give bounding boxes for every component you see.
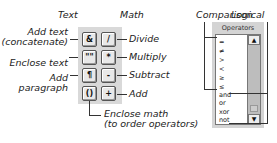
operators-panel: Operators = ≠ > < ≥ ≤ and or xor not ▲ ▼ <box>212 22 264 128</box>
connector-line <box>117 75 127 76</box>
label-add-paragraph: Add paragraph <box>19 73 68 93</box>
label-divide: Divide <box>129 34 159 44</box>
operator-less-equal[interactable]: ≤ <box>219 84 224 91</box>
logical-bracket <box>267 22 268 124</box>
operators-list[interactable]: = ≠ > < ≥ ≤ and or xor not ▲ ▼ <box>215 34 261 125</box>
label-enclose-math: Enclose math (to order operators) <box>104 109 198 129</box>
header-logical: Logical <box>231 10 264 20</box>
header-math: Math <box>120 10 144 20</box>
operator-xor[interactable]: xor <box>219 109 229 116</box>
parentheses-button[interactable]: () <box>82 86 97 101</box>
add-button[interactable]: + <box>101 86 116 101</box>
scroll-thumb[interactable] <box>250 105 258 112</box>
operator-greater[interactable]: > <box>219 57 224 64</box>
label-multiply: Multiply <box>129 52 167 62</box>
connector-line <box>117 39 127 40</box>
comparison-bracket <box>204 37 217 38</box>
enclose-text-button[interactable]: "" <box>82 50 97 65</box>
comparison-bracket <box>204 22 205 90</box>
concatenate-button[interactable]: & <box>82 32 97 47</box>
label-subtract: Subtract <box>129 70 169 80</box>
operator-or[interactable]: or <box>219 100 226 107</box>
connector-line <box>117 94 127 95</box>
subtract-button[interactable]: - <box>101 68 116 83</box>
logical-bracket <box>229 93 268 94</box>
operator-not-equal[interactable]: ≠ <box>219 48 224 55</box>
label-enclose-text: Enclose text <box>10 58 68 68</box>
connector-line <box>89 101 90 116</box>
connector-line <box>117 57 127 58</box>
label-add-text: Add text (concatenate) <box>2 27 69 47</box>
scroll-up-icon[interactable]: ▲ <box>248 35 260 45</box>
operators-title: Operators <box>212 24 264 32</box>
operator-less[interactable]: < <box>219 66 224 73</box>
operator-equal[interactable]: = <box>219 39 224 46</box>
operators-scrollbar[interactable]: ▲ ▼ <box>247 35 260 124</box>
logical-bracket <box>229 123 268 124</box>
multiply-button[interactable]: * <box>101 50 116 65</box>
comparison-bracket <box>204 89 217 90</box>
operator-greater-equal[interactable]: ≥ <box>219 75 224 82</box>
connector-line <box>89 115 101 116</box>
paragraph-button[interactable]: ¶ <box>82 68 97 83</box>
divide-button[interactable]: / <box>101 32 116 47</box>
label-add: Add <box>129 89 148 99</box>
header-text: Text <box>58 10 78 20</box>
